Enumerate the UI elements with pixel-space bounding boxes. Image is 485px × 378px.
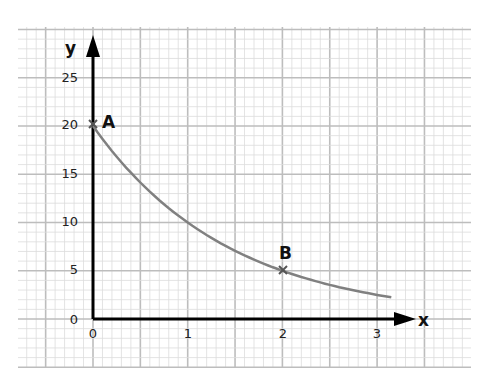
y-axis-label: y [65,38,76,58]
x-tick-2: 2 [279,326,287,341]
exponential-decay-chart: x y 25 20 15 10 5 0 0 1 2 3 A B [0,0,485,378]
x-axis-arrow-icon [394,312,416,326]
y-axis-arrow-icon [86,35,100,57]
x-tick-0: 0 [89,326,97,341]
point-b-label: B [279,243,292,263]
x-tick-1: 1 [184,326,192,341]
y-tick-5: 5 [70,262,78,277]
point-a-label: A [102,112,116,132]
y-tick-15: 15 [61,166,78,181]
x-axis-label: x [418,310,429,330]
y-tick-0: 0 [70,312,78,327]
decay-curve [93,126,391,297]
y-tick-20: 20 [61,117,78,132]
y-tick-25: 25 [61,70,78,85]
x-tick-3: 3 [373,326,381,341]
y-tick-10: 10 [61,214,78,229]
